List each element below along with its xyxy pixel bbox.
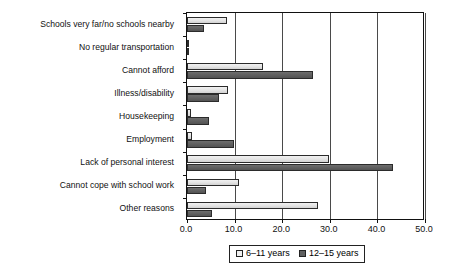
bar-1-3 (187, 94, 219, 102)
plot-area (186, 12, 424, 220)
category-label: Cannot afford (0, 65, 174, 75)
legend-swatch-6-11-years (236, 250, 243, 257)
x-tick-label-50.0: 50.0 (415, 224, 433, 234)
legend-entry-series-1: 12–15 years (299, 248, 359, 259)
x-tick-50.0 (425, 219, 426, 223)
bar-1-4 (187, 117, 209, 125)
x-tick-label-40.0: 40.0 (368, 224, 386, 234)
y-tick-3 (183, 82, 187, 83)
bar-1-1 (187, 48, 189, 56)
y-tick-1 (183, 36, 187, 37)
y-tick-4 (183, 105, 187, 106)
legend-label-6-11-years: 6–11 years (246, 248, 290, 259)
bar-0-8 (187, 202, 318, 210)
bar-0-4 (187, 109, 191, 117)
x-tick-label-30.0: 30.0 (320, 224, 338, 234)
y-tick-5 (183, 129, 187, 130)
bar-0-1 (187, 40, 189, 48)
x-tick-0.0 (187, 219, 188, 223)
bar-1-0 (187, 25, 204, 33)
bar-0-2 (187, 63, 263, 71)
y-tick-8 (183, 198, 187, 199)
gridline-40.0 (377, 13, 378, 219)
category-axis-labels: Schools very far/no schools nearbyNo reg… (0, 12, 180, 220)
gridline-30.0 (330, 13, 331, 219)
bar-0-5 (187, 132, 192, 140)
y-tick-2 (183, 59, 187, 60)
bar-1-2 (187, 71, 313, 79)
category-label: Employment (0, 134, 174, 144)
bar-chart: Schools very far/no schools nearbyNo reg… (0, 0, 452, 273)
category-label: Schools very far/no schools nearby (0, 19, 174, 29)
gridline-50.0 (425, 13, 426, 219)
x-tick-label-20.0: 20.0 (272, 224, 290, 234)
gridline-10.0 (235, 13, 236, 219)
category-label: Lack of personal interest (0, 157, 174, 167)
category-label: Other reasons (0, 203, 174, 213)
y-tick-6 (183, 152, 187, 153)
bar-1-8 (187, 210, 212, 218)
bar-1-7 (187, 187, 206, 195)
x-tick-20.0 (282, 219, 283, 223)
x-tick-10.0 (235, 219, 236, 223)
category-label: No regular transportation (0, 42, 174, 52)
x-tick-label-0.0: 0.0 (180, 224, 193, 234)
legend-label-12-15-years: 12–15 years (309, 248, 359, 259)
x-axis-tick-labels: 0.010.020.030.040.050.0 (186, 224, 424, 238)
x-tick-label-10.0: 10.0 (225, 224, 243, 234)
y-tick-7 (183, 175, 187, 176)
bar-1-6 (187, 164, 393, 172)
x-tick-40.0 (377, 219, 378, 223)
bar-1-5 (187, 140, 234, 148)
bar-0-6 (187, 155, 329, 163)
legend-swatch-12-15-years (299, 250, 306, 257)
category-label: Housekeeping (0, 111, 174, 121)
bar-0-3 (187, 86, 228, 94)
x-tick-30.0 (330, 219, 331, 223)
category-label: Illness/disability (0, 88, 174, 98)
y-tick-0 (183, 13, 187, 14)
chart-legend: 6–11 years 12–15 years (229, 245, 365, 263)
category-label: Cannot cope with school work (0, 180, 174, 190)
gridline-20.0 (282, 13, 283, 219)
legend-entry-series-0: 6–11 years (236, 248, 290, 259)
bar-0-7 (187, 179, 239, 187)
bar-0-0 (187, 17, 227, 25)
